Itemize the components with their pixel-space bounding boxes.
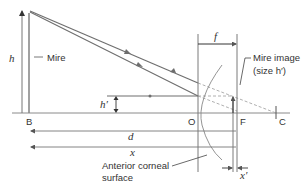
label-x: x <box>129 146 135 158</box>
label-cornea-2: surface <box>102 172 133 183</box>
keratometer-diagram: h Mire f Mire image (size h′) h′ B O F C… <box>0 0 306 190</box>
mire-image-leader <box>240 58 245 85</box>
cornea-leader <box>172 155 207 166</box>
label-x-prime: x′ <box>239 169 248 181</box>
ray-arrow-mid <box>170 68 176 73</box>
label-h-prime: h′ <box>100 98 109 110</box>
label-mire-image-1: Mire image <box>253 52 300 63</box>
label-B: B <box>26 116 32 127</box>
h-prime-arrow-down <box>114 109 119 113</box>
label-f: f <box>214 30 219 42</box>
label-mire: Mire <box>47 52 65 63</box>
ray-arrow-upper <box>124 49 131 54</box>
label-d: d <box>128 130 134 142</box>
label-C: C <box>279 116 286 127</box>
label-h: h <box>9 52 15 64</box>
ray-arrow-lower <box>136 62 143 67</box>
label-mire-image-2: (size h′) <box>253 65 286 76</box>
label-cornea-1: Anterior corneal <box>102 160 169 171</box>
label-F: F <box>240 116 246 127</box>
h-prime-dot <box>149 95 152 98</box>
label-O: O <box>188 116 195 127</box>
